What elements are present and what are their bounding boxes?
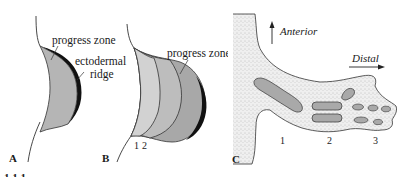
zone-number-2: 2 — [142, 140, 147, 151]
progress-zone-label-b: progress zone — [167, 47, 231, 60]
progress-zone-label-a: progress zone — [52, 34, 116, 47]
anterior-label: Anterior — [279, 25, 318, 37]
region-number-3: 3 — [373, 135, 378, 146]
region-number-1: 1 — [280, 135, 285, 146]
panel-letter-b: B — [102, 152, 110, 164]
zone-number-1: 1 — [134, 140, 139, 151]
panel-letter-c: C — [232, 153, 240, 165]
body-wall-outline — [28, 16, 40, 162]
limb-development-figure: progress zone ectodermal ridge A progres… — [0, 0, 405, 177]
digit-cartilage — [374, 119, 383, 124]
distal-label: Distal — [351, 52, 379, 64]
digit-cartilage — [382, 106, 391, 112]
panel-letter-a: A — [9, 152, 17, 164]
anterior-arrowhead — [270, 21, 275, 28]
digit-cartilage — [354, 117, 368, 123]
digit-cartilage — [368, 105, 378, 111]
distal-arrowhead — [378, 65, 385, 70]
panel-a: progress zone ectodermal ridge A — [9, 16, 126, 164]
body-wall-outline-b — [117, 24, 134, 162]
panel-b: progress zone 1 2 B — [102, 24, 231, 164]
radius-cartilage — [312, 102, 342, 110]
ectodermal-label: ectodermal — [75, 55, 126, 67]
ridge-label: ridge — [90, 68, 114, 81]
ulna-cartilage — [312, 114, 342, 122]
figure-caption-fragment: 1.1.1 ... — [4, 171, 37, 177]
panel-c: Anterior Distal 1 2 3 C — [228, 10, 397, 166]
digit-cartilage — [353, 104, 364, 110]
region-number-2: 2 — [327, 135, 332, 146]
